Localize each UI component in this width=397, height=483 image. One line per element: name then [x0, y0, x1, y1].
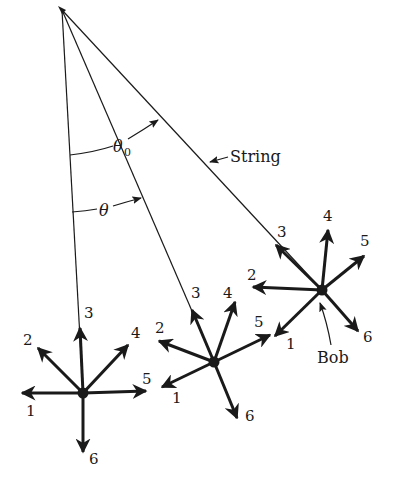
force-arrow-1	[162, 362, 214, 387]
bob-dot	[317, 285, 328, 296]
force-arrow-4	[83, 345, 128, 393]
force-label-5: 5	[142, 370, 152, 388]
angle-annotations: θ 0 θ	[70, 120, 158, 220]
bob-group-left: 123456	[22, 304, 152, 468]
theta-arc-right	[113, 198, 141, 206]
force-label-6: 6	[245, 407, 255, 425]
bob-pointer	[320, 303, 331, 345]
force-label-2: 2	[155, 319, 165, 337]
force-label-3: 3	[277, 223, 287, 241]
force-label-3: 3	[84, 304, 94, 322]
force-arrow-5	[83, 391, 146, 393]
force-label-2: 2	[247, 266, 257, 284]
theta0-label: θ	[113, 137, 123, 156]
theta0-arc-right	[128, 120, 158, 139]
force-label-1: 1	[26, 402, 36, 420]
bob-dot	[209, 357, 220, 368]
force-arrow-6	[214, 362, 237, 418]
string-callout: String	[210, 147, 281, 166]
force-label-5: 5	[360, 232, 370, 250]
force-arrow-4	[322, 230, 328, 290]
theta0-arc-left	[70, 146, 113, 155]
force-label-3: 3	[191, 284, 201, 302]
strings	[58, 6, 322, 393]
bob-group-middle: 123456	[155, 284, 270, 425]
force-arrow-2	[38, 348, 83, 393]
force-label-6: 6	[89, 450, 99, 468]
theta-label: θ	[99, 201, 109, 220]
force-label-4: 4	[223, 284, 233, 302]
string-label: String	[230, 147, 281, 166]
bob-label: Bob	[317, 348, 349, 367]
theta-arc-left	[72, 209, 97, 212]
bob-dot	[78, 388, 89, 399]
force-arrow-3	[276, 245, 322, 290]
string-pointer	[210, 157, 228, 162]
force-arrow-3	[80, 328, 83, 393]
force-arrow-6	[322, 290, 358, 331]
force-label-4: 4	[323, 207, 333, 225]
force-arrow-2	[253, 287, 322, 290]
force-label-1: 1	[286, 335, 296, 353]
theta0-subscript: 0	[124, 146, 131, 159]
pendulum-diagram: θ 0 θ String 123456123456123456 Bob	[0, 0, 397, 483]
force-label-4: 4	[131, 324, 141, 342]
force-label-6: 6	[363, 328, 373, 346]
force-label-5: 5	[254, 313, 264, 331]
force-label-1: 1	[172, 389, 182, 407]
force-arrow-1	[275, 290, 322, 336]
bob-callout: Bob	[317, 303, 349, 367]
force-label-2: 2	[23, 331, 33, 349]
force-arrow-5	[322, 256, 364, 290]
